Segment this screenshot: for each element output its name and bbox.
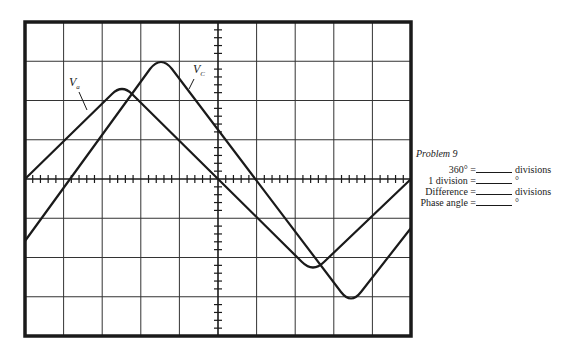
row-unit: ° xyxy=(512,197,519,208)
answer-blank xyxy=(476,186,512,195)
row-label: Phase angle = xyxy=(416,197,476,208)
row-unit: divisions xyxy=(512,164,551,175)
row-unit: divisions xyxy=(512,186,551,197)
answer-blank xyxy=(476,197,512,206)
va-label: Va xyxy=(69,75,80,91)
answer-blank xyxy=(476,164,512,173)
answer-blank xyxy=(476,175,512,184)
vc-leader-line xyxy=(189,79,194,89)
problem-title: Problem 9 xyxy=(416,148,576,159)
row-label: Difference = xyxy=(416,186,476,197)
row-phase-angle: Phase angle = ° xyxy=(416,197,576,208)
problem-panel: Problem 9 360° = divisions 1 division = … xyxy=(416,148,576,208)
vc-label: VC xyxy=(193,62,205,78)
row-unit: ° xyxy=(512,175,519,186)
row-label: 1 division = xyxy=(416,175,476,186)
row-difference: Difference = divisions xyxy=(416,186,576,197)
row-360-degrees: 360° = divisions xyxy=(416,164,576,175)
row-one-division: 1 division = ° xyxy=(416,175,576,186)
row-label: 360° = xyxy=(416,164,476,175)
